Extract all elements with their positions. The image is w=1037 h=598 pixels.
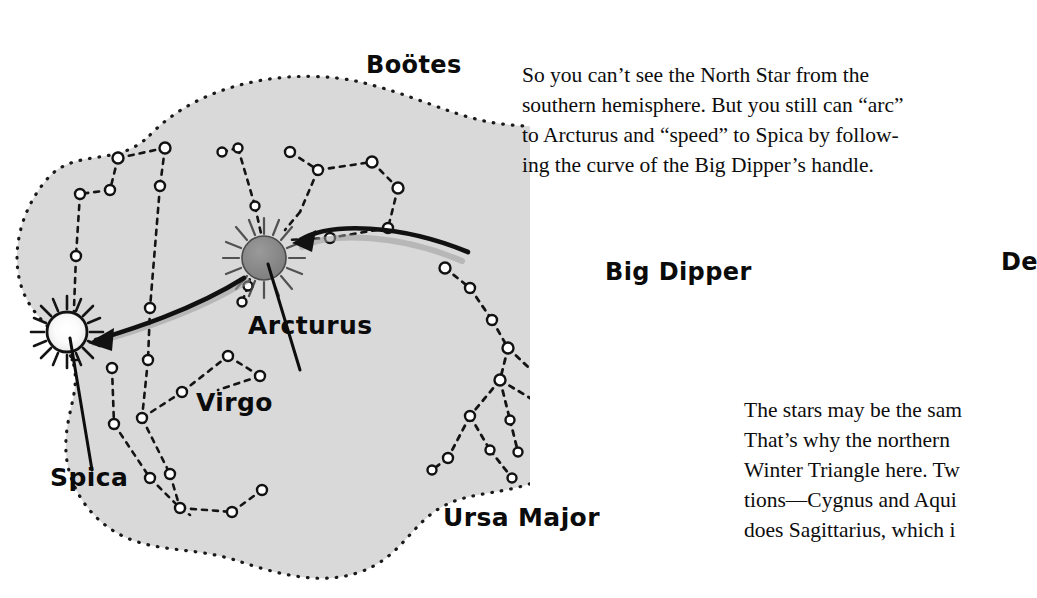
paragraph-line: That’s why the northern [744, 425, 962, 455]
paragraph-winter-triangle: The stars may be the sam That’s why the … [744, 395, 962, 545]
paragraph-line: to Arcturus and “speed” to Spica by foll… [522, 120, 904, 150]
map-label-bootes: Boötes [366, 53, 462, 77]
paragraph-line: Winter Triangle here. Tw [744, 455, 962, 485]
map-label-deneb: De [1001, 250, 1037, 274]
map-label-virgo: Virgo [196, 390, 273, 415]
paragraph-line: ing the curve of the Big Dipper’s handle… [522, 150, 904, 180]
paragraph-line: does Sagittarius, which i [744, 515, 962, 545]
paragraph-line: So you can’t see the North Star from the [522, 60, 904, 90]
paragraph-line: The stars may be the sam [744, 395, 962, 425]
map-label-big-dipper: Big Dipper [605, 260, 752, 284]
paragraph-north-star: So you can’t see the North Star from the… [522, 60, 904, 180]
map-label-arcturus: Arcturus [248, 313, 372, 338]
paragraph-line: tions—Cygnus and Aqui [744, 485, 962, 515]
map-label-spica: Spica [50, 465, 128, 490]
book-page: Boötes Arcturus Virgo Spica Big Dipper U… [0, 0, 1037, 598]
map-label-ursa-major: Ursa Major [443, 505, 600, 530]
paragraph-line: southern hemisphere. But you still can “… [522, 90, 904, 120]
star-spica [31, 296, 103, 368]
